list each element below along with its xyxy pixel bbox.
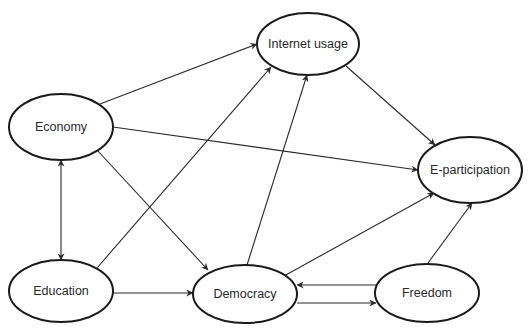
- edge-education-to-internet-usage: [97, 67, 271, 268]
- node-label: Education: [33, 284, 89, 298]
- node-economy: Economy: [9, 94, 113, 160]
- path-diagram: Internet usageEconomyE-participationEduc…: [0, 0, 530, 332]
- node-e-participation: E-participation: [418, 137, 522, 203]
- edge-economy-to-democracy: [97, 150, 208, 270]
- node-democracy: Democracy: [193, 265, 297, 323]
- node-label: Freedom: [402, 286, 452, 300]
- node-label: Internet usage: [268, 37, 348, 51]
- node-label: E-participation: [430, 163, 510, 177]
- node-freedom: Freedom: [375, 264, 479, 322]
- edge-economy-to-e-participation: [113, 127, 418, 170]
- edge-economy-to-internet-usage: [100, 44, 257, 104]
- edge-freedom-to-e-participation: [428, 203, 472, 263]
- edge-democracy-to-internet-usage: [247, 75, 307, 265]
- edge-democracy-to-e-participation: [284, 193, 434, 276]
- node-label: Economy: [35, 120, 88, 134]
- edge-internet-usage-to-e-participation: [346, 66, 435, 145]
- edges-layer: [61, 44, 472, 303]
- node-label: Democracy: [213, 287, 277, 301]
- nodes-layer: Internet usageEconomyE-participationEduc…: [9, 13, 522, 323]
- node-education: Education: [9, 260, 113, 322]
- node-internet-usage: Internet usage: [257, 13, 359, 75]
